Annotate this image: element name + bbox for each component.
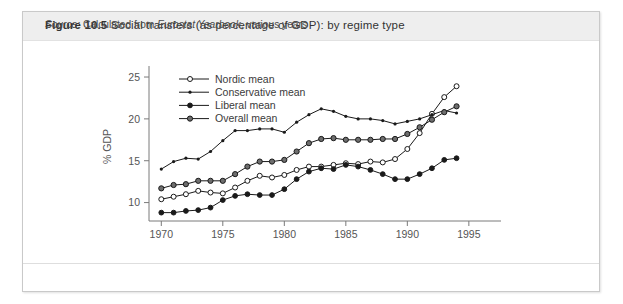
data-point xyxy=(294,149,299,154)
series-overall-mean xyxy=(159,104,459,191)
data-point xyxy=(332,110,335,113)
data-point xyxy=(454,84,459,89)
data-point xyxy=(184,209,189,214)
data-point xyxy=(220,198,225,203)
line-chart-svg: 10152025197019751980198519901995% GDP No… xyxy=(23,41,601,265)
data-point xyxy=(307,169,312,174)
source-text-b: , various years xyxy=(241,19,307,30)
data-point xyxy=(405,131,410,136)
data-point xyxy=(197,157,200,160)
data-point xyxy=(393,122,396,125)
data-point xyxy=(392,136,397,141)
data-point xyxy=(188,77,193,82)
data-point xyxy=(418,117,421,120)
x-tick-label: 1975 xyxy=(211,228,235,240)
data-point xyxy=(257,173,262,178)
data-point xyxy=(208,178,213,183)
data-point xyxy=(258,127,261,130)
data-point xyxy=(172,160,175,163)
data-point xyxy=(417,125,422,130)
data-point xyxy=(430,113,433,116)
data-point xyxy=(257,159,262,164)
data-point xyxy=(344,115,347,118)
data-point xyxy=(221,139,224,142)
data-point xyxy=(442,157,447,162)
figure-container: Figure 10.5 Social transfers (as percent… xyxy=(22,11,600,292)
source-label: Source: xyxy=(45,19,80,30)
chart-legend: Nordic meanConservative meanLiberal mean… xyxy=(179,73,306,125)
y-tick-label: 25 xyxy=(128,71,140,83)
figure-source-band xyxy=(23,263,599,291)
legend-label: Overall mean xyxy=(215,112,278,124)
data-point xyxy=(171,210,176,215)
legend-item-nordic-mean: Nordic mean xyxy=(179,73,275,85)
data-point xyxy=(417,172,422,177)
data-point xyxy=(245,192,250,197)
data-point xyxy=(406,120,409,123)
data-point xyxy=(233,185,238,190)
data-point xyxy=(294,177,299,182)
data-point xyxy=(306,164,311,169)
data-point xyxy=(454,104,459,109)
data-point xyxy=(234,129,237,132)
data-point xyxy=(331,167,336,172)
data-point xyxy=(282,157,287,162)
data-point xyxy=(319,136,324,141)
data-point xyxy=(295,121,298,124)
data-point xyxy=(368,168,373,173)
data-point xyxy=(233,193,238,198)
data-point xyxy=(380,172,385,177)
x-tick-label: 1995 xyxy=(457,228,481,240)
data-point xyxy=(357,117,360,120)
data-point xyxy=(220,191,225,196)
data-point xyxy=(405,147,410,152)
data-point xyxy=(246,129,249,132)
data-point xyxy=(417,131,422,136)
x-tick-label: 1970 xyxy=(150,228,174,240)
data-point xyxy=(159,186,164,191)
data-point xyxy=(270,175,275,180)
legend-label: Conservative mean xyxy=(215,86,306,98)
data-point xyxy=(160,168,163,171)
data-point xyxy=(209,150,212,153)
legend-label: Liberal mean xyxy=(215,99,276,111)
data-point xyxy=(331,136,336,141)
data-point xyxy=(442,95,447,100)
data-point xyxy=(183,182,188,187)
data-point xyxy=(245,164,250,169)
legend-item-conservative-mean: Conservative mean xyxy=(179,86,306,98)
data-point xyxy=(442,110,447,115)
legend-label: Nordic mean xyxy=(215,73,275,85)
data-point xyxy=(283,131,286,134)
data-point xyxy=(269,159,274,164)
data-point xyxy=(270,127,273,130)
data-point xyxy=(188,103,193,108)
data-point xyxy=(196,208,201,213)
data-point xyxy=(282,187,287,192)
data-point xyxy=(320,107,323,110)
data-point xyxy=(196,188,201,193)
y-tick-label: 10 xyxy=(128,196,140,208)
data-point xyxy=(343,163,348,168)
data-point xyxy=(196,178,201,183)
data-point xyxy=(356,137,361,142)
data-point xyxy=(270,193,275,198)
data-point xyxy=(405,177,410,182)
data-point xyxy=(159,210,164,215)
x-tick-label: 1985 xyxy=(334,228,358,240)
data-point xyxy=(306,141,311,146)
data-point xyxy=(171,182,176,187)
data-point xyxy=(184,157,187,160)
data-point xyxy=(380,160,385,165)
data-point xyxy=(220,178,225,183)
y-tick-label: 20 xyxy=(128,113,140,125)
data-point xyxy=(430,166,435,171)
source-text-a: Calculated from xyxy=(83,19,154,30)
x-tick-label: 1980 xyxy=(273,228,297,240)
data-point xyxy=(183,192,188,197)
data-point xyxy=(343,137,348,142)
data-point xyxy=(368,137,373,142)
data-point xyxy=(245,178,250,183)
data-point xyxy=(380,136,385,141)
data-point xyxy=(307,113,310,116)
